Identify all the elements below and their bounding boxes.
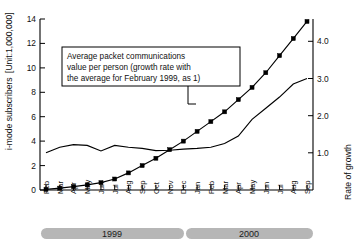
data-point-marker <box>250 85 254 89</box>
y2-axis-ticks <box>308 41 313 153</box>
x-axis-month-label: Aug <box>124 180 133 194</box>
data-point-marker <box>291 37 295 41</box>
data-point-marker <box>181 139 185 143</box>
svg-text:1.0: 1.0 <box>317 148 329 158</box>
period-bar-2000-label: 2000 <box>239 229 259 239</box>
data-point-marker <box>209 120 213 124</box>
data-point-marker <box>44 187 48 191</box>
data-point-marker <box>278 54 282 58</box>
x-axis-month-label: Jul <box>111 184 120 194</box>
data-point-marker <box>223 110 227 114</box>
period-bar-2000: 2000 <box>186 228 313 239</box>
data-point-marker <box>126 171 130 175</box>
data-point-marker <box>168 148 172 152</box>
x-axis-month-label: Mar <box>221 180 230 194</box>
x-axis-month-label: Sep <box>138 180 147 194</box>
svg-text:12: 12 <box>27 38 37 48</box>
x-axis-month-label: Sep <box>303 180 312 194</box>
svg-text:4.0: 4.0 <box>317 36 329 46</box>
data-point-marker <box>140 164 144 168</box>
x-axis-month-label: Dec <box>179 180 188 194</box>
x-axis-month-label: Nov <box>166 180 175 194</box>
svg-text:4: 4 <box>31 136 36 146</box>
svg-text:2: 2 <box>31 161 36 171</box>
y-axis-title: i-mode subscribers <box>4 77 14 150</box>
y-axis-ticks <box>40 19 45 190</box>
annotation-line-1: Average packet communications <box>67 52 185 61</box>
chart-svg: i-mode subscribers [Unit:1,000,000] Rate… <box>0 0 356 251</box>
svg-text:0: 0 <box>31 185 36 195</box>
y-axis-unit-label: [Unit:1,000,000] <box>4 12 14 73</box>
annotation-line-3: the average for February 1999, as 1) <box>67 74 201 83</box>
y2-axis-title: Rate of growth <box>343 144 353 200</box>
growth-rate-line <box>46 78 307 152</box>
x-axis-month-label: Oct <box>152 181 161 194</box>
period-bar-1999-label: 1999 <box>102 229 122 239</box>
x-axis-month-label: Aug <box>289 180 298 194</box>
y2-axis-tick-labels: 1.0 2.0 3.0 4.0 <box>317 36 329 158</box>
x-axis-month-label: May <box>248 179 257 194</box>
x-axis-month-label: Jul <box>276 184 285 194</box>
data-point-marker <box>113 177 117 181</box>
x-axis-month-label: Feb <box>207 181 216 194</box>
data-point-marker <box>85 183 89 187</box>
svg-text:8: 8 <box>31 87 36 97</box>
data-point-marker <box>264 71 268 75</box>
x-axis-month-label: Apr <box>234 182 243 194</box>
svg-text:3.0: 3.0 <box>317 74 329 84</box>
callout-leader-line <box>188 86 196 104</box>
svg-text:14: 14 <box>27 14 37 24</box>
period-bar-1999: 1999 <box>41 228 184 239</box>
y-axis-tick-labels: 0 2 4 6 8 10 12 14 <box>27 14 37 195</box>
data-point-marker <box>99 181 103 185</box>
data-point-marker <box>71 185 75 189</box>
x-axis-tick-labels: FebMarAprMayJunJulAugSepOctNovDecJanFebM… <box>42 179 312 194</box>
annotation-line-2: value per person (growth rate with <box>67 63 191 72</box>
svg-text:2.0: 2.0 <box>317 111 329 121</box>
data-point-marker <box>236 98 240 102</box>
data-point-marker <box>305 19 309 23</box>
svg-text:6: 6 <box>31 112 36 122</box>
chart-container: i-mode subscribers [Unit:1,000,000] Rate… <box>0 0 356 251</box>
data-point-marker <box>154 156 158 160</box>
x-axis-month-label: Jun <box>262 182 271 194</box>
x-axis-month-label: Jan <box>193 182 202 194</box>
data-point-marker <box>58 186 62 190</box>
svg-text:10: 10 <box>27 63 37 73</box>
data-point-marker <box>195 129 199 133</box>
